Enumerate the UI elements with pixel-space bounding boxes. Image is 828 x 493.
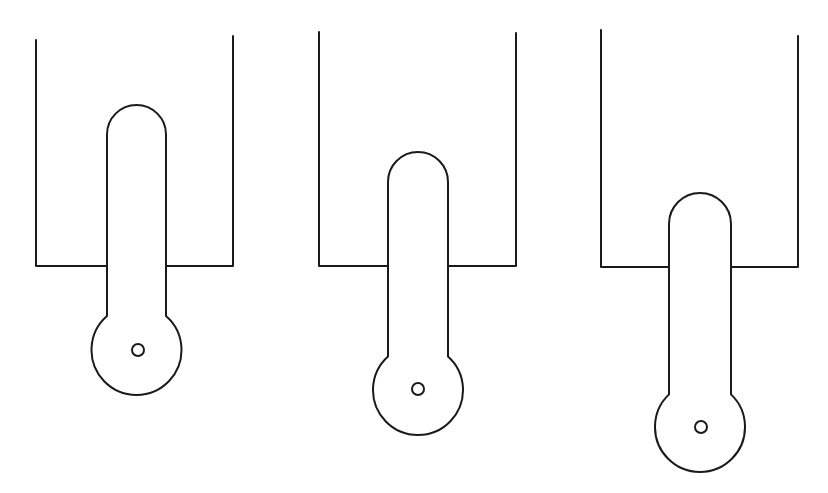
panel-1 bbox=[36, 36, 233, 395]
panel-3 bbox=[601, 30, 798, 472]
pivot-hole bbox=[412, 383, 424, 395]
pivot-hole bbox=[132, 344, 144, 356]
diagram-canvas bbox=[0, 0, 828, 493]
float-diagram bbox=[0, 0, 828, 493]
panel-2 bbox=[319, 32, 516, 435]
pivot-hole bbox=[695, 421, 707, 433]
